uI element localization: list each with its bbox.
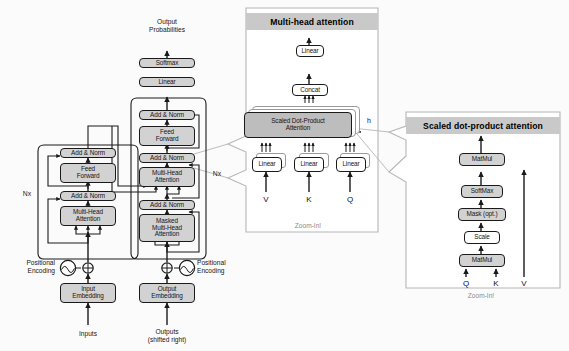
output-embedding-node[interactable]: Output Embedding — [139, 283, 195, 303]
decoder-add-norm-2-node[interactable]: Add & Norm — [139, 153, 195, 163]
decoder-linear-label: Linear — [158, 79, 175, 86]
encoder-feed-forward-line2: Forward — [77, 173, 100, 180]
scaled-panel-caption: Zoom-In! — [421, 292, 541, 299]
encoder-multi-head-line2: Attention — [76, 216, 100, 223]
encoder-add-norm-2-node[interactable]: Add & Norm — [60, 148, 116, 158]
decoder-softmax-label: Softmax — [156, 60, 179, 67]
decoder-add-norm-3-node[interactable]: Add & Norm — [139, 110, 195, 120]
decoder-add-norm-3-label: Add & Norm — [150, 112, 184, 119]
sdpa-matmul-top-node[interactable]: MatMul — [459, 153, 505, 166]
inputs-label: Inputs — [58, 330, 118, 338]
sdpa-matmul-bottom-node[interactable]: MatMul — [459, 254, 505, 267]
mha-concat-label: Concat — [300, 87, 320, 94]
encoder-nx-label: Nx — [18, 190, 36, 198]
mha-heads-count-label: h — [364, 117, 374, 126]
mha-linear-q-label: Linear — [342, 161, 359, 168]
mha-concat-node[interactable]: Concat — [292, 84, 328, 96]
input-embedding-line2: Embedding — [72, 293, 103, 300]
decoder-feed-forward-line2: Forward — [156, 136, 179, 143]
sdpa-mask-node[interactable]: Mask (opt.) — [458, 208, 506, 221]
sdpa-softmax-label: SoftMax — [471, 188, 494, 195]
sdpa-input-q-label: Q — [459, 279, 473, 289]
mha-linear-k-label: Linear — [300, 161, 317, 168]
encoder-add-norm-1-node[interactable]: Add & Norm — [60, 191, 116, 201]
mha-linear-k-node[interactable]: Linear — [294, 157, 324, 172]
mha-sdpa-line2: Attention — [286, 125, 310, 132]
mha-output-linear-label: Linear — [301, 48, 318, 55]
masked-multi-head-line3: Attention — [155, 231, 179, 238]
mha-linear-v-label: Linear — [258, 161, 275, 168]
decoder-add-norm-1-label: Add & Norm — [150, 202, 184, 209]
mha-output-linear-node[interactable]: Linear — [296, 45, 324, 57]
encoder-add-norm-1-label: Add & Norm — [71, 193, 105, 200]
sdpa-input-v-label: V — [517, 279, 531, 289]
encoder-multi-head-attention-node[interactable]: Multi-Head Attention — [60, 206, 116, 226]
mha-input-q-label: Q — [343, 195, 357, 205]
encoder-feed-forward-node[interactable]: Feed Forward — [60, 163, 116, 183]
decoder-positional-encoding-label: Positional Encoding — [197, 259, 251, 275]
output-embedding-line2: Embedding — [151, 293, 182, 300]
decoder-multi-head-attention-node[interactable]: Multi-Head Attention — [139, 167, 195, 187]
scaled-panel-title: Scaled dot-product attention — [406, 117, 560, 134]
encoder-add-norm-2-label: Add & Norm — [71, 150, 105, 157]
multi-head-panel-caption: Zoom-In! — [248, 222, 368, 229]
sdpa-scale-node[interactable]: Scale — [464, 231, 500, 244]
sdpa-matmul-top-label: MatMul — [472, 156, 492, 163]
decoder-softmax-node[interactable]: Softmax — [139, 58, 195, 68]
transformer-architecture-figure: Input Embedding Multi-Head Attention Add… — [0, 0, 569, 351]
sdpa-softmax-node[interactable]: SoftMax — [461, 185, 503, 198]
mha-input-v-label: V — [259, 195, 273, 205]
sdpa-matmul-bottom-label: MatMul — [472, 257, 492, 264]
mha-input-k-label: K — [302, 195, 316, 205]
decoder-nx-label: Nx — [208, 170, 226, 178]
decoder-add-norm-1-node[interactable]: Add & Norm — [139, 200, 195, 210]
mha-scaled-dot-product-attention-node[interactable]: Scaled Dot-Product Attention — [244, 112, 352, 138]
sdpa-input-k-label: K — [489, 279, 503, 289]
sdpa-mask-label: Mask (opt.) — [467, 211, 498, 218]
input-embedding-node[interactable]: Input Embedding — [60, 283, 116, 303]
decoder-feed-forward-node[interactable]: Feed Forward — [139, 126, 195, 146]
outputs-label: Outputs (shifted right) — [131, 328, 203, 344]
output-probabilities-label: Output Probabilities — [137, 18, 197, 34]
mha-linear-q-node[interactable]: Linear — [336, 157, 366, 172]
decoder-linear-node[interactable]: Linear — [139, 77, 195, 87]
sdpa-scale-label: Scale — [474, 234, 490, 241]
mha-linear-v-node[interactable]: Linear — [252, 157, 282, 172]
decoder-masked-multi-head-attention-node[interactable]: Masked Multi-Head Attention — [139, 214, 195, 242]
encoder-positional-encoding-label: Positional Encoding — [3, 259, 55, 275]
decoder-multi-head-line2: Attention — [155, 177, 179, 184]
decoder-add-norm-2-label: Add & Norm — [150, 155, 184, 162]
multi-head-panel-title: Multi-head attention — [246, 13, 378, 30]
